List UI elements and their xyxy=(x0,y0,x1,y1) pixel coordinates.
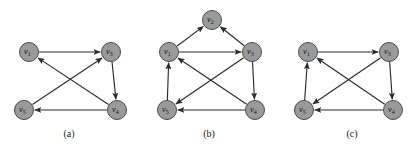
edge-b-v4-to-v1 xyxy=(178,58,247,104)
edge-c-v3-to-v4 xyxy=(390,62,393,99)
panel-caption-c: (c) xyxy=(346,128,357,140)
node-c-v1: v1 xyxy=(299,43,318,62)
graphs-canvas: v1v3v5v4v2v1v3v5v4v1v3v5v4 (a)(b)(c) xyxy=(0,0,410,150)
node-b-v1: v1 xyxy=(160,43,179,62)
panel-caption-a: (a) xyxy=(63,128,74,140)
node-c-v3: v3 xyxy=(380,43,399,62)
node-a-v5: v5 xyxy=(15,101,34,120)
node-a-v3: v3 xyxy=(102,43,121,62)
edge-b-v3-to-v2 xyxy=(220,27,244,46)
node-b-v4: v4 xyxy=(246,101,265,120)
node-c-v4: v4 xyxy=(384,101,403,120)
edge-a-v3-to-v4 xyxy=(112,62,116,99)
edge-a-v4-to-v1 xyxy=(38,58,109,105)
edge-a-v5-to-v3 xyxy=(32,58,102,104)
node-c-v5: v5 xyxy=(295,101,314,120)
node-b-v3: v3 xyxy=(243,43,262,62)
node-a-v1: v1 xyxy=(20,43,39,62)
edges-layer xyxy=(32,26,392,110)
captions-layer: (a)(b)(c) xyxy=(63,128,357,140)
edge-c-v3-to-v5 xyxy=(313,58,381,104)
panel-caption-b: (b) xyxy=(203,128,215,140)
edge-b-v3-to-v5 xyxy=(176,58,244,104)
node-a-v4: v4 xyxy=(108,101,127,120)
nodes-layer: v1v3v5v4v2v1v3v5v4v1v3v5v4 xyxy=(15,11,403,120)
node-b-v2: v2 xyxy=(203,11,222,30)
figure-three-directed-graphs: v1v3v5v4v2v1v3v5v4v1v3v5v4 (a)(b)(c) xyxy=(0,0,410,150)
edge-c-v4-to-v1 xyxy=(317,58,385,104)
edge-c-v5-to-v1 xyxy=(305,63,308,100)
edge-b-v3-to-v4 xyxy=(253,62,255,99)
node-b-v5: v5 xyxy=(158,101,177,120)
edge-b-v5-to-v1 xyxy=(167,63,168,100)
edge-b-v1-to-v2 xyxy=(177,26,203,46)
